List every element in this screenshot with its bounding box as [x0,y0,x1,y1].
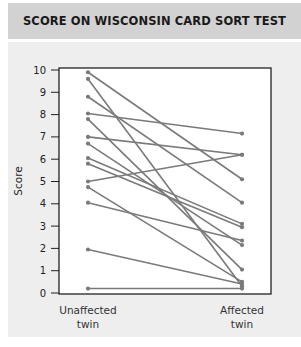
x-category-label: twin [77,318,99,330]
y-tick-label: 7 [40,131,46,142]
y-axis-title: Score [12,166,24,195]
data-point-affected [240,201,244,205]
x-category-label: Affected [220,304,264,316]
data-point-unaffected [86,156,90,160]
y-tick-label: 0 [40,288,46,299]
data-point-affected [240,286,244,290]
data-point-unaffected [86,70,90,74]
x-category-label: Unaffected [59,304,116,316]
data-point-unaffected [86,162,90,166]
data-point-affected [240,153,244,157]
y-tick-label: 8 [40,109,46,120]
data-point-unaffected [86,111,90,115]
y-tick-label: 10 [33,65,46,76]
x-category-label: twin [231,318,253,330]
y-tick-label: 3 [40,221,46,232]
data-point-unaffected [86,117,90,121]
data-point-unaffected [86,77,90,81]
data-point-affected [240,177,244,181]
data-point-affected [240,238,244,242]
data-point-unaffected [86,247,90,251]
data-point-affected [240,243,244,247]
data-point-unaffected [86,201,90,205]
data-point-unaffected [86,95,90,99]
slope-chart: 012345678910ScoreUnaffectedtwinAffectedt… [0,0,301,347]
data-point-affected [240,282,244,286]
y-tick-label: 5 [40,176,46,187]
y-tick-label: 2 [40,243,46,254]
data-point-affected [240,267,244,271]
y-tick-label: 6 [40,154,46,165]
data-point-unaffected [86,185,90,189]
y-tick-label: 4 [40,198,46,209]
y-tick-label: 9 [40,87,46,98]
y-tick-label: 1 [40,265,46,276]
data-point-unaffected [86,141,90,145]
data-point-unaffected [86,179,90,183]
data-point-unaffected [86,286,90,290]
data-point-unaffected [86,135,90,139]
data-point-affected [240,225,244,229]
data-point-affected [240,131,244,135]
